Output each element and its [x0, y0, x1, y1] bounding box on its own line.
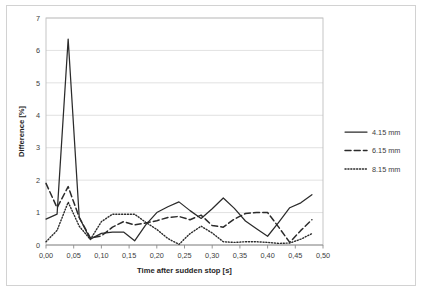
- line-chart: 012345670,000,050,100,150,200,250,300,35…: [0, 0, 423, 293]
- y-tick-label: 5: [36, 79, 40, 88]
- chart-figure: 012345670,000,050,100,150,200,250,300,35…: [0, 0, 423, 293]
- legend: 4.15 mm6.15 mm8.15 mm: [345, 128, 400, 174]
- x-tick-label: 0,30: [205, 251, 219, 260]
- y-tick-label: 7: [36, 14, 40, 23]
- plot-area-border: [46, 18, 323, 245]
- y-axis-title: Difference [%]: [17, 106, 26, 158]
- legend-label-1: 4.15 mm: [372, 128, 400, 137]
- x-tick-label: 0,00: [39, 251, 53, 260]
- y-tick-label: 3: [36, 143, 40, 152]
- y-tick-label: 2: [36, 176, 40, 185]
- x-tick-label: 0,20: [150, 251, 164, 260]
- legend-label-2: 6.15 mm: [372, 146, 400, 155]
- legend-label-3: 8.15 mm: [372, 165, 400, 174]
- y-tick-label: 0: [36, 241, 40, 250]
- x-tick-label: 0,45: [288, 251, 302, 260]
- x-axis-title: Time after sudden stop [s]: [137, 266, 232, 275]
- x-tick-label: 0,15: [122, 251, 136, 260]
- series-group: [46, 39, 312, 244]
- series-line-3: [46, 202, 312, 244]
- y-tick-label: 1: [36, 208, 40, 217]
- x-tick-label: 0,35: [233, 251, 247, 260]
- x-tick-label: 0,05: [67, 251, 81, 260]
- x-axis-ticks: [46, 245, 323, 249]
- x-axis-tick-labels: 0,000,050,100,150,200,250,300,350,400,45…: [39, 251, 330, 260]
- y-tick-label: 4: [36, 111, 40, 120]
- y-tick-label: 6: [36, 46, 40, 55]
- y-axis-tick-labels: 01234567: [36, 14, 40, 250]
- x-tick-label: 0,50: [316, 251, 330, 260]
- series-line-1: [46, 39, 312, 241]
- x-tick-label: 0,10: [94, 251, 108, 260]
- gridlines: [46, 18, 323, 213]
- x-tick-label: 0,25: [177, 251, 191, 260]
- x-tick-label: 0,40: [260, 251, 274, 260]
